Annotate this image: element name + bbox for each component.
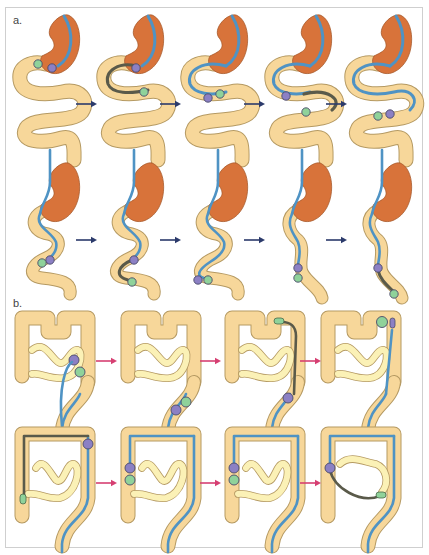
small-bowel-loops bbox=[242, 347, 291, 379]
arrow-a-row2-4 bbox=[326, 237, 347, 243]
balloon-scope bbox=[130, 256, 138, 264]
arrow-b-row1-2 bbox=[200, 358, 221, 364]
balloon-overtube bbox=[294, 274, 302, 282]
small-bowel-loops bbox=[138, 347, 187, 379]
arrow-head bbox=[91, 101, 97, 107]
balloon-overtube bbox=[34, 60, 42, 68]
diagram-canvas bbox=[0, 0, 429, 555]
stage-a-row1-4 bbox=[272, 15, 337, 160]
stomach bbox=[209, 163, 248, 222]
balloon-scope bbox=[125, 463, 135, 473]
balloon-overtube-deflated bbox=[274, 318, 284, 324]
balloon-overtube bbox=[374, 112, 382, 120]
balloon-scope bbox=[386, 110, 394, 118]
overtube-dark bbox=[330, 470, 380, 498]
stage-b-row2-4 bbox=[325, 434, 394, 552]
balloon-scope bbox=[171, 405, 181, 415]
balloon-overtube bbox=[75, 367, 85, 377]
balloon-scope bbox=[132, 64, 140, 72]
balloon-scope bbox=[46, 256, 54, 264]
balloon-overtube bbox=[390, 290, 398, 298]
stomach bbox=[41, 163, 80, 222]
stage-a-row2-1 bbox=[32, 150, 79, 294]
arrow-head bbox=[111, 480, 117, 486]
balloon-overtube bbox=[302, 108, 310, 116]
stage-a-row1-3 bbox=[188, 15, 253, 160]
small-bowel-loops bbox=[338, 347, 387, 379]
arrow-a-row2-3 bbox=[244, 237, 265, 243]
balloon-overtube bbox=[377, 317, 388, 328]
stage-a-row1-2 bbox=[104, 15, 169, 160]
small-intestine bbox=[289, 210, 322, 298]
arrow-a-row2-1 bbox=[76, 237, 97, 243]
balloon-scope bbox=[48, 64, 56, 72]
balloon-overtube bbox=[140, 88, 148, 96]
balloon-overtube-deflated bbox=[376, 492, 386, 498]
balloon-scope bbox=[282, 92, 290, 100]
arrow-head bbox=[215, 480, 221, 486]
small-intestine bbox=[352, 63, 417, 160]
balloon-overtube bbox=[128, 278, 136, 286]
stage-b-row1-2 bbox=[128, 318, 194, 436]
small-intestine bbox=[188, 63, 253, 160]
arrow-head bbox=[175, 237, 181, 243]
balloon-scope bbox=[204, 94, 212, 102]
stage-b-row1-1 bbox=[22, 318, 88, 436]
stage-b-row1-3 bbox=[232, 318, 298, 436]
stomach bbox=[125, 163, 164, 222]
balloon-overtube bbox=[216, 90, 224, 98]
balloon-overtube bbox=[38, 259, 46, 267]
arrow-b-row1-1 bbox=[96, 358, 117, 364]
stage-b-row1-4 bbox=[328, 317, 395, 437]
stage-b-row2-1 bbox=[20, 434, 93, 552]
sigmoid-rectum bbox=[168, 382, 194, 430]
stomach bbox=[293, 163, 332, 222]
arrow-b-row2-2 bbox=[200, 480, 221, 486]
balloon-overtube-deflated bbox=[20, 494, 26, 504]
arrow-a-row2-2 bbox=[160, 237, 181, 243]
balloon-scope bbox=[374, 264, 382, 272]
stage-b-row2-3 bbox=[229, 434, 298, 552]
small-intestine bbox=[32, 210, 70, 294]
balloon-overtube bbox=[125, 475, 135, 485]
small-intestine bbox=[104, 63, 169, 160]
balloon-overtube bbox=[181, 397, 191, 407]
arrow-head bbox=[315, 480, 321, 486]
sigmoid-rectum bbox=[368, 382, 394, 430]
arrow-b-row2-1 bbox=[96, 480, 117, 486]
arrow-head bbox=[315, 358, 321, 364]
stage-a-row1-1 bbox=[20, 15, 85, 160]
balloon-scope bbox=[325, 463, 335, 473]
balloon-scope bbox=[283, 393, 293, 403]
balloon-scope bbox=[294, 264, 302, 272]
stage-b-row2-2 bbox=[125, 434, 194, 552]
arrow-head bbox=[175, 101, 181, 107]
stage-a-row1-5 bbox=[352, 15, 417, 160]
balloon-overtube bbox=[229, 475, 239, 485]
balloon-scope bbox=[83, 439, 93, 449]
arrow-head bbox=[259, 237, 265, 243]
arrow-head bbox=[215, 358, 221, 364]
balloon-overtube bbox=[204, 276, 212, 284]
stage-a-row2-3 bbox=[194, 150, 248, 294]
sigmoid-rectum bbox=[62, 382, 88, 430]
stage-a-row2-2 bbox=[116, 150, 163, 294]
stomach bbox=[373, 163, 412, 222]
stage-a-row2-4 bbox=[289, 150, 332, 298]
arrow-head bbox=[259, 101, 265, 107]
balloon-scope bbox=[194, 276, 202, 284]
arrow-head bbox=[91, 237, 97, 243]
stage-a-row2-5 bbox=[369, 150, 412, 298]
balloon-scope-deflated bbox=[390, 318, 395, 328]
arrow-head bbox=[341, 237, 347, 243]
balloon-scope bbox=[229, 463, 239, 473]
arrow-head bbox=[111, 358, 117, 364]
small-intestine bbox=[20, 63, 85, 160]
